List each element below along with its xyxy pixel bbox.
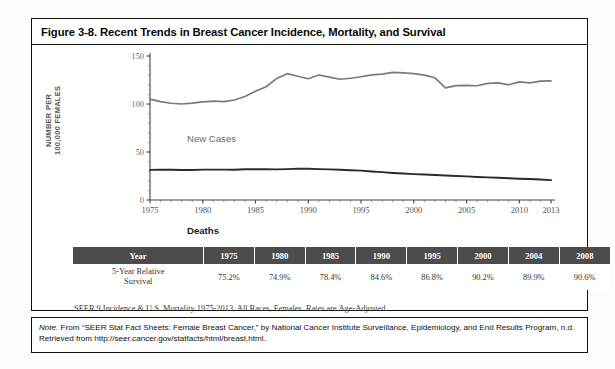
table-cell-1980: 74.9% [254, 264, 305, 290]
note-box: Note. From “SEER Stat Fact Sheets: Femal… [31, 317, 588, 353]
table-header-1980: 1980 [254, 247, 305, 264]
table-header-1995: 1995 [407, 247, 458, 264]
table-header-1975: 1975 [204, 247, 255, 264]
table-header-2000: 2000 [458, 247, 509, 264]
table-row: 5-Year Relative Survival 75.2% 74.9% 78.… [73, 264, 610, 290]
table-row-label-line1: 5-Year Relative [112, 267, 164, 276]
table-header-1985: 1985 [305, 247, 356, 264]
svg-text:2005: 2005 [458, 205, 475, 215]
svg-text:2013: 2013 [542, 205, 559, 215]
table-header-2008: 2008 [559, 247, 610, 264]
series-label-new-cases: New Cases [187, 133, 236, 144]
svg-text:1985: 1985 [247, 205, 264, 215]
svg-text:1975: 1975 [141, 205, 158, 215]
table-header-2004: 2004 [508, 247, 559, 264]
figure-source-note: SEER 9 Incidence & U.S. Mortality 1975-2… [74, 304, 388, 313]
table-header-1990: 1990 [356, 247, 407, 264]
table-header-row: Year 1975 1980 1985 1990 1995 2000 2004 … [73, 247, 610, 264]
y-tick-labels: 050100150 [132, 52, 144, 205]
svg-text:100: 100 [132, 100, 144, 109]
svg-text:1990: 1990 [300, 205, 317, 215]
table-cell-2004: 89.9% [508, 264, 559, 290]
chart-area: NUMBER PER 100,000 FEMALES 050100150 197… [32, 45, 587, 235]
table-row-label: 5-Year Relative Survival [73, 264, 204, 290]
figure-box: Figure 3-8. Recent Trends in Breast Canc… [31, 18, 588, 311]
svg-text:2010: 2010 [511, 205, 528, 215]
figure-title: Figure 3-8. Recent Trends in Breast Canc… [32, 26, 446, 38]
table-cell-1975: 75.2% [204, 264, 255, 290]
table-cell-2000: 90.2% [458, 264, 509, 290]
table-cell-1990: 84.6% [356, 264, 407, 290]
svg-text:0: 0 [140, 196, 144, 205]
svg-text:1995: 1995 [352, 205, 369, 215]
series-line-new-cases [150, 72, 551, 104]
line-chart-svg: 050100150 197519801985199019952000200520… [32, 45, 589, 235]
table-cell-1985: 78.4% [305, 264, 356, 290]
table-header-year: Year [73, 247, 204, 264]
figure-title-bar: Figure 3-8. Recent Trends in Breast Canc… [32, 19, 587, 45]
table-row-label-line2: Survival [124, 277, 152, 286]
svg-text:150: 150 [132, 52, 144, 61]
survival-table: Year 1975 1980 1985 1990 1995 2000 2004 … [73, 247, 610, 290]
series-label-deaths: Deaths [187, 225, 219, 236]
x-tick-labels: 197519801985199019952000200520102013 [141, 205, 559, 215]
table-cell-2008: 90.6% [559, 264, 610, 290]
note-body: From “SEER Stat Fact Sheets: Female Brea… [39, 323, 574, 343]
table-cell-1995: 86.8% [407, 264, 458, 290]
svg-text:1980: 1980 [194, 205, 211, 215]
note-text: Note. From “SEER Stat Fact Sheets: Femal… [39, 322, 580, 344]
figure-page: Figure 3-8. Recent Trends in Breast Canc… [0, 0, 615, 369]
svg-text:2000: 2000 [405, 205, 422, 215]
note-label: Note. [39, 323, 58, 332]
svg-text:50: 50 [136, 148, 144, 157]
series-line-deaths [150, 169, 551, 181]
